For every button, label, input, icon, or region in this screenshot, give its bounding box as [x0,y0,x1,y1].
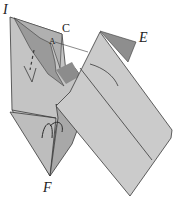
fold-drawing [0,0,176,203]
label-c: C [62,22,70,34]
right-strip [56,32,172,196]
label-e: E [139,31,148,45]
lower-left-triangle [10,112,56,176]
origami-diagram: I C A E F [0,0,176,203]
label-i: I [3,3,8,17]
label-a: A [49,37,56,46]
label-f: F [43,181,52,195]
